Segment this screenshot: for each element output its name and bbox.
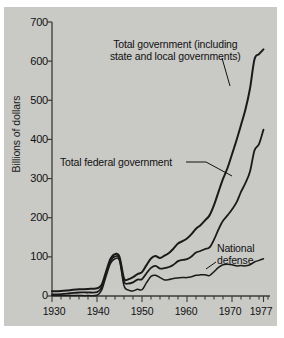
series-line-0 xyxy=(52,49,264,291)
x-ticks-group xyxy=(52,296,268,302)
chart-plot-area xyxy=(0,0,284,338)
axes-group xyxy=(52,22,270,296)
series-group xyxy=(52,49,264,295)
leader-line-total-government xyxy=(222,58,230,86)
chart-figure: Billions of dollars 700 600 500 400 300 … xyxy=(0,0,284,338)
leader-lines-group xyxy=(186,58,232,269)
leader-line-national-defense xyxy=(206,262,216,269)
y-ticks-group xyxy=(47,22,52,296)
